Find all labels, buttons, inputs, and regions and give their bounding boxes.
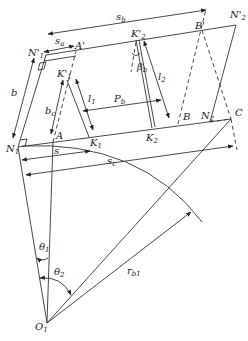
label-beta-b: βb [136,61,148,74]
label-s: s [54,145,59,156]
ray-O1-A [47,142,53,323]
label-theta-2: θ2 [54,266,65,279]
dash-C-down [231,119,237,150]
dash-A-Ap [53,51,76,142]
edge-bottom [18,119,231,147]
label-l-1: l1 [88,93,96,106]
dim-b [13,58,34,138]
label-l-2: l2 [158,71,166,84]
label-N1: N1 [5,143,19,156]
label-r-b1: rb1 [127,265,141,278]
label-Bp: B' [194,20,205,31]
dim-s-b [48,10,206,34]
edge-N1-N1p [18,55,46,147]
ray-O1-C [47,119,231,323]
ray-O1-N1 [18,147,47,323]
arc-theta-2 [40,278,71,295]
arc-theta-1 [37,258,48,260]
label-K2: K2 [145,132,158,145]
label-B: B [182,111,190,122]
label-K1p: K'1 [56,68,72,81]
label-b: b [11,87,17,98]
dash-Bp-C [202,30,231,119]
label-b-c: bc [45,105,55,118]
label-C: C [235,107,243,118]
edge-N2-N2p [210,25,236,122]
label-K1: K1 [89,137,102,150]
label-N1p: N'1 [27,47,44,60]
label-s-b: sb [116,11,126,24]
diagram-canvas: sb N'1 sa A' K'2 B' N'2 K'1 βb b bc l1 P… [0,0,248,341]
label-P-b: Pb [113,93,126,106]
edge-top-inner [44,56,76,61]
right-angle-N1 [20,139,27,146]
ray-O1-rb1 [47,212,191,323]
label-A: A [55,130,63,141]
strut-K2-inner [139,40,155,127]
label-s-c: sc [107,155,116,168]
label-N2p: N'2 [229,9,247,22]
dash-K2p-beta [131,42,136,72]
strut-K2 [136,40,152,128]
label-Ap: A' [74,40,85,51]
label-theta-1: θ1 [39,241,50,254]
label-s-a: sa [55,35,64,48]
label-O1: O1 [35,321,48,334]
geometry-diagram: sb N'1 sa A' K'2 B' N'2 K'1 βb b bc l1 P… [0,0,248,341]
label-K2p: K'2 [130,28,146,41]
